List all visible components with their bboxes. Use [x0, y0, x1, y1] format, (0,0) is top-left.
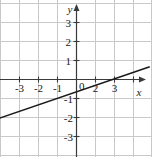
y-tick-label-pos1: 1 — [66, 55, 72, 67]
y-tick-label-neg1: -1 — [64, 93, 73, 105]
x-tick-label-pos2: 2 — [93, 82, 99, 94]
coordinate-plane-svg: -3 -2 -1 2 3 3 2 1 -1 -2 -3 0 x y — [0, 0, 152, 157]
x-tick-label-neg2: -2 — [34, 82, 43, 94]
y-axis-label: y — [67, 3, 73, 15]
y-tick-label-pos2: 2 — [66, 36, 72, 48]
y-tick-label-neg2: -2 — [64, 112, 73, 124]
x-axis-label: x — [136, 86, 142, 98]
x-tick-label-pos3: 3 — [112, 82, 118, 94]
graph-figure: -3 -2 -1 2 3 3 2 1 -1 -2 -3 0 x y — [0, 0, 152, 157]
x-tick-label-neg3: -3 — [15, 82, 25, 94]
x-tick-label-neg1: -1 — [53, 82, 62, 94]
origin-label: 0 — [79, 80, 85, 92]
y-tick-label-neg3: -3 — [64, 131, 74, 143]
y-tick-label-pos3: 3 — [66, 17, 72, 29]
